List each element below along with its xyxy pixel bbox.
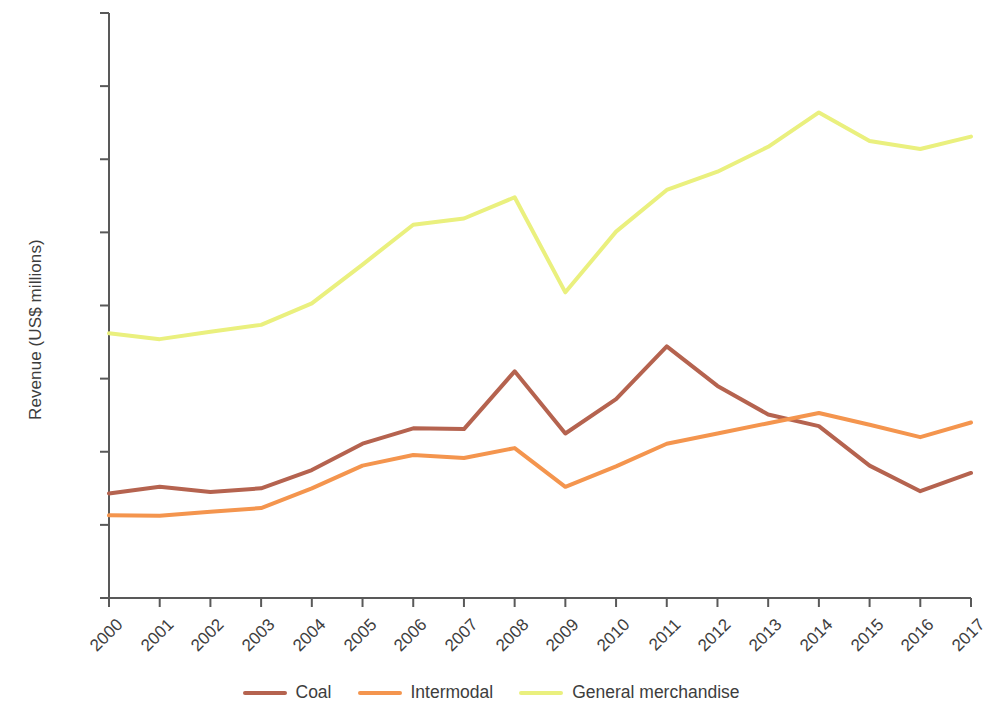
legend-label: General merchandise bbox=[572, 682, 739, 703]
legend-label: Coal bbox=[296, 682, 332, 703]
legend-label: Intermodal bbox=[411, 682, 494, 703]
legend-swatch-icon bbox=[243, 691, 287, 695]
legend-swatch-icon bbox=[519, 691, 563, 695]
legend-swatch-icon bbox=[358, 691, 402, 695]
legend-item-coal[interactable]: Coal bbox=[243, 682, 332, 703]
legend-item-general-merchandise[interactable]: General merchandise bbox=[519, 682, 739, 703]
chart-legend: CoalIntermodalGeneral merchandise bbox=[0, 682, 982, 703]
legend-item-intermodal[interactable]: Intermodal bbox=[358, 682, 494, 703]
